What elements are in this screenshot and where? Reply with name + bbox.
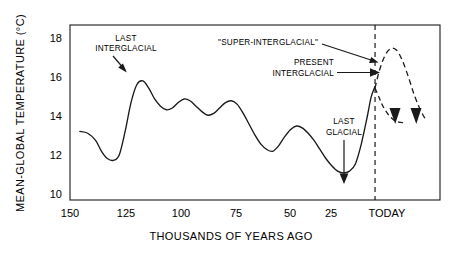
last-glacial-label-line2: GLACIAL xyxy=(326,128,362,137)
x-axis-ticks: 150 125 100 75 50 25 TODAY xyxy=(61,207,406,219)
y-tick-label: 16 xyxy=(50,71,62,83)
x-tick-label: 100 xyxy=(172,207,190,219)
x-tick-label: 25 xyxy=(325,207,337,219)
last-interglacial-label-line2: INTERGLACIAL xyxy=(95,44,157,53)
x-tick-label: TODAY xyxy=(369,207,407,219)
super-interglacial-label: "SUPER-INTERGLACIAL" xyxy=(218,38,318,47)
y-tick-label: 10 xyxy=(50,188,62,200)
present-interglacial-label-line2: INTERGLACIAL xyxy=(272,69,334,78)
y-tick-label: 12 xyxy=(50,149,62,161)
present-interglacial-label-line1: PRESENT xyxy=(294,58,334,67)
chart-container: 18 16 14 12 10 150 125 100 75 50 25 TODA… xyxy=(0,0,457,253)
x-tick-label: 150 xyxy=(61,207,79,219)
last-interglacial-label-line1: LAST xyxy=(115,34,136,43)
x-tick-label: 75 xyxy=(230,207,242,219)
y-axis-ticks: 18 16 14 12 10 xyxy=(50,32,62,200)
x-axis-title: THOUSANDS OF YEARS AGO xyxy=(149,230,312,242)
temperature-chart: 18 16 14 12 10 150 125 100 75 50 25 TODA… xyxy=(0,0,457,253)
y-axis-title: MEAN-GLOBAL TEMPERATURE (°C) xyxy=(14,14,26,212)
x-tick-label: 125 xyxy=(117,207,135,219)
x-tick-label: 50 xyxy=(284,207,296,219)
y-tick-label: 18 xyxy=(50,32,62,44)
y-tick-label: 14 xyxy=(50,110,62,122)
last-glacial-label-line1: LAST xyxy=(333,117,354,126)
